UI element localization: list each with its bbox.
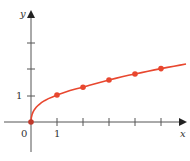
point-0 [28, 119, 34, 125]
point-3 [106, 77, 112, 83]
x-axis-label: x [180, 128, 186, 139]
y-axis-label: y [19, 8, 26, 19]
point-5 [158, 66, 164, 72]
x-tick-label-1: 1 [54, 128, 60, 139]
origin-label: 0 [21, 128, 27, 139]
sqrt-curve [31, 64, 186, 122]
point-1 [54, 92, 60, 98]
data-points [28, 66, 164, 125]
point-4 [132, 71, 138, 77]
point-2 [80, 84, 86, 90]
sqrt-chart: 0 1 1 x y [0, 0, 190, 161]
y-tick-label-1: 1 [16, 90, 22, 101]
